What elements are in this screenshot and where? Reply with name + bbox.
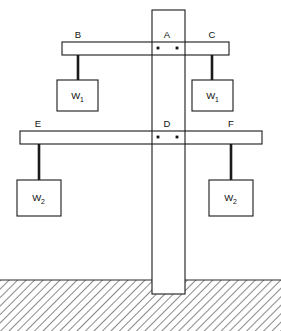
weight-subscript-e: 2 bbox=[41, 198, 45, 205]
node-label-b: B bbox=[75, 29, 81, 40]
upper-pivot-left-dot bbox=[157, 47, 160, 50]
ground-region bbox=[0, 280, 281, 331]
node-label-c: C bbox=[209, 29, 216, 40]
weight-symbol-e: W bbox=[32, 192, 41, 203]
diagram-canvas: B A C E D F W1 W1 W2 W2 bbox=[0, 0, 281, 331]
ground-hatching bbox=[0, 280, 281, 331]
node-label-f: F bbox=[228, 118, 234, 129]
weight-symbol-b: W bbox=[71, 90, 80, 101]
weight-symbol-c: W bbox=[206, 90, 215, 101]
node-label-e: E bbox=[35, 118, 41, 129]
node-label-a: A bbox=[164, 29, 171, 40]
lower-pivot-left-dot bbox=[157, 136, 160, 139]
weight-subscript-c: 1 bbox=[215, 96, 219, 103]
weight-symbol-f: W bbox=[224, 192, 233, 203]
weight-subscript-b: 1 bbox=[80, 96, 84, 103]
upper-beam bbox=[62, 42, 229, 55]
upper-pivot-right-dot bbox=[176, 47, 179, 50]
weight-subscript-f: 2 bbox=[233, 198, 237, 205]
lower-pivot-right-dot bbox=[176, 136, 179, 139]
post-beam-diagram: B A C E D F W1 W1 W2 W2 bbox=[0, 0, 281, 331]
lower-beam bbox=[20, 131, 262, 144]
node-label-d: D bbox=[164, 118, 171, 129]
